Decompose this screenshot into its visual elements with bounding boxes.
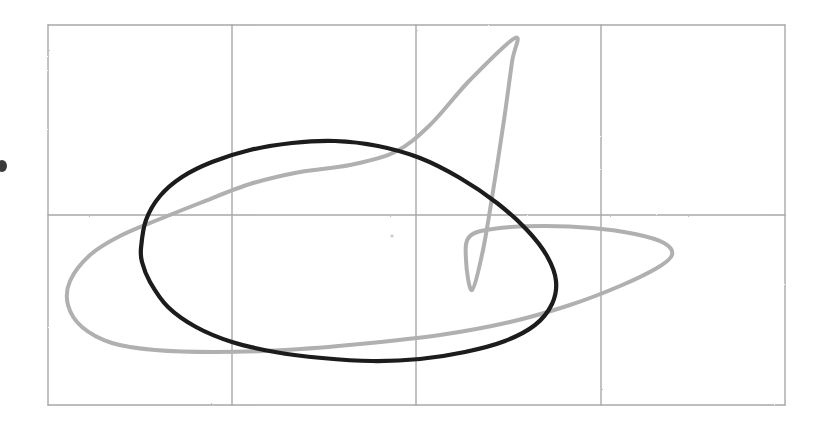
left-edge-dot-icon [0,160,7,172]
curve-outer-cusped [67,38,672,352]
plot-grid [48,25,785,405]
figure-root [0,0,822,429]
center-speck-icon [390,234,393,237]
stray-marks [0,160,394,238]
plot-canvas [0,0,822,429]
curve-outer-cusped-path [67,38,672,352]
